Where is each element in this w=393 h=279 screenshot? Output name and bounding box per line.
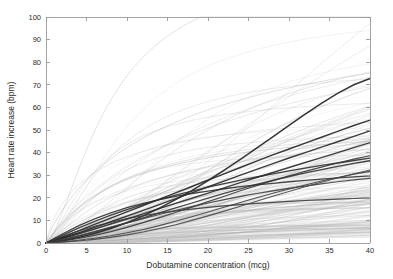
y-tick-label: 90 [33,35,41,44]
y-tick-label: 0 [37,239,41,248]
x-tick-label: 30 [285,246,293,255]
y-tick-label: 50 [33,126,41,135]
y-tick-label: 100 [28,13,41,22]
x-tick-label: 35 [325,246,333,255]
dose-response-chart: 0510152025303540 0102030405060708090100 … [0,0,393,279]
y-tick-label: 80 [33,58,41,67]
figure-container: 0510152025303540 0102030405060708090100 … [0,0,393,279]
x-tick-label: 0 [44,246,48,255]
x-tick-label: 5 [84,246,88,255]
x-axis-title: Dobutamine concentration (mcg) [146,260,269,270]
y-tick-label: 30 [33,171,41,180]
y-tick-label: 20 [33,194,41,203]
y-axis-title: Heart rate increase (bpm) [6,81,16,178]
y-tick-label: 10 [33,216,41,225]
y-tick-label: 70 [33,81,41,90]
y-tick-label: 60 [33,103,41,112]
y-tick-label: 40 [33,148,41,157]
x-tick-label: 15 [163,246,171,255]
x-tick-label: 20 [204,246,212,255]
x-tick-label: 10 [123,246,131,255]
x-tick-label: 25 [244,246,252,255]
x-tick-label: 40 [366,246,374,255]
